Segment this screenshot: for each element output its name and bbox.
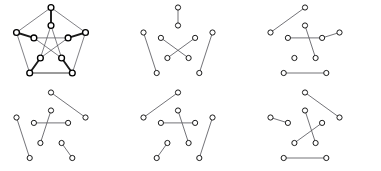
- vertex-o4: [268, 115, 273, 120]
- vertex-o2: [69, 70, 75, 76]
- vertex-o1: [337, 115, 342, 120]
- vertex-i1: [320, 120, 325, 125]
- vertex-i2: [313, 55, 318, 60]
- vertex-o2: [197, 155, 202, 160]
- vertex-o1: [210, 30, 215, 35]
- vertex-i2: [186, 55, 191, 60]
- vertex-i1: [193, 120, 198, 125]
- vertex-i0: [302, 23, 307, 28]
- vertex-o0: [48, 90, 53, 95]
- vertex-o3: [281, 70, 286, 75]
- vertex-o0: [175, 90, 180, 95]
- vertex-i0: [175, 108, 180, 113]
- vertex-i3: [292, 55, 297, 60]
- vertex-i2: [313, 140, 318, 145]
- vertex-i3: [165, 55, 170, 60]
- vertex-o4: [268, 30, 273, 35]
- vertex-i2: [59, 55, 65, 61]
- figure-canvas: [0, 0, 381, 171]
- vertex-i4: [285, 35, 290, 40]
- vertex-o3: [27, 155, 32, 160]
- vertex-i1: [193, 35, 198, 40]
- vertex-i4: [285, 120, 290, 125]
- vertex-o0: [175, 5, 180, 10]
- vertex-o0: [302, 90, 307, 95]
- vertex-i1: [65, 35, 71, 41]
- vertex-o2: [324, 70, 329, 75]
- vertex-i4: [31, 35, 37, 41]
- vertex-o2: [70, 155, 75, 160]
- vertex-i3: [292, 140, 297, 145]
- vertex-i3: [38, 55, 44, 61]
- vertex-i2: [186, 140, 191, 145]
- vertex-o1: [83, 30, 89, 36]
- vertex-o3: [281, 155, 286, 160]
- vertex-o4: [14, 30, 20, 36]
- vertex-i1: [320, 35, 325, 40]
- vertex-o0: [48, 5, 54, 11]
- vertex-i4: [31, 120, 36, 125]
- vertex-o4: [141, 30, 146, 35]
- vertex-i0: [302, 108, 307, 113]
- vertex-o1: [83, 115, 88, 120]
- vertex-o3: [27, 70, 33, 76]
- vertex-i0: [48, 108, 53, 113]
- vertex-i3: [38, 140, 43, 145]
- vertex-i3: [165, 140, 170, 145]
- vertex-i4: [158, 120, 163, 125]
- vertex-o2: [324, 155, 329, 160]
- vertex-i0: [175, 23, 180, 28]
- vertex-i1: [66, 120, 71, 125]
- vertex-o3: [154, 155, 159, 160]
- vertex-o0: [302, 5, 307, 10]
- vertex-o4: [14, 115, 19, 120]
- vertex-i2: [59, 140, 64, 145]
- vertex-o4: [141, 115, 146, 120]
- vertex-o1: [210, 115, 215, 120]
- vertex-o3: [154, 70, 159, 75]
- vertex-i4: [158, 35, 163, 40]
- petersen-matchings-figure: [0, 0, 381, 171]
- vertex-i0: [48, 23, 54, 29]
- vertex-o2: [197, 70, 202, 75]
- vertex-o1: [337, 30, 342, 35]
